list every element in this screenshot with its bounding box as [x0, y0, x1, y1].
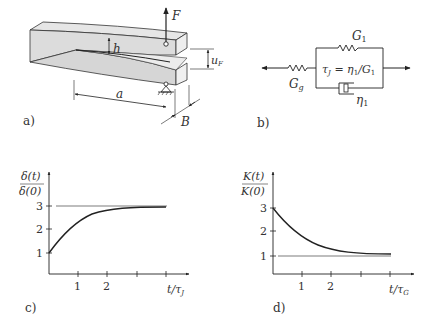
panel-b-label: b): [257, 116, 269, 130]
c-ylabel-numerator: δ(t): [21, 170, 41, 183]
relaxation-relation: τJ = η1/G1: [322, 63, 375, 77]
c-ylabel-denominator: δ(0): [19, 185, 41, 198]
panel-a-label: a): [23, 114, 35, 128]
width-label: B: [180, 115, 190, 129]
crack-length-label: a: [116, 87, 123, 101]
displacement-label: uF: [211, 54, 224, 68]
c-ytick-3: 3: [36, 200, 43, 213]
figure-canvas: F h uF a B a): [0, 0, 437, 320]
chart-d: [270, 172, 414, 277]
d-xtick-1: 1: [298, 280, 305, 293]
spring-g1-label: G1: [352, 29, 367, 44]
c-ytick-1: 1: [36, 247, 43, 260]
panel-a-specimen: [30, 22, 187, 85]
panel-d-label: d): [273, 301, 285, 315]
chart-c: [46, 172, 189, 277]
d-ytick-3: 3: [260, 202, 267, 215]
crack-opening-label: h: [113, 42, 121, 56]
dashpot-label: η1: [356, 93, 368, 108]
c-xtick-1: 1: [74, 280, 81, 293]
d-xtick-2: 2: [327, 280, 334, 293]
d-ytick-2: 2: [260, 225, 267, 238]
spring-gg-label: Gg: [289, 77, 304, 92]
d-ytick-1: 1: [260, 250, 267, 263]
force-label: F: [171, 9, 181, 23]
d-xlabel: t/τG: [389, 283, 409, 297]
c-xtick-2: 2: [103, 280, 110, 293]
c-ytick-2: 2: [36, 223, 43, 236]
d-ylabel-numerator: K(t): [242, 170, 264, 183]
panel-c-label: c): [25, 301, 36, 315]
d-ylabel-denominator: K(0): [240, 185, 265, 198]
c-xlabel: t/τJ: [167, 283, 185, 297]
